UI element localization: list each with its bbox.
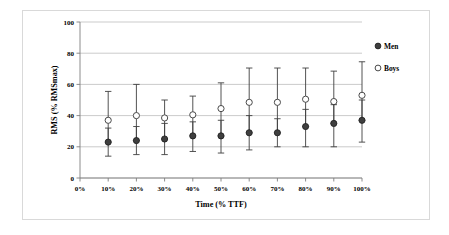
y-tick-label-20: 20 (67, 143, 75, 151)
x-tick-label-20: 20% (129, 185, 143, 193)
legend-label-boys: Boys (384, 64, 399, 73)
data-point-boys (105, 117, 111, 123)
x-tick-label-80: 80% (299, 185, 313, 193)
series-boys (105, 62, 365, 142)
y-axis-title: RMS (% RMSmax) (50, 65, 59, 134)
y-tick-label-80: 80 (67, 50, 75, 58)
data-point-boys (303, 96, 309, 102)
y-tick-label-0: 0 (71, 175, 75, 183)
x-tick-label-10: 10% (101, 185, 115, 193)
x-tick-label-60: 60% (242, 185, 256, 193)
data-point-boys (162, 115, 168, 121)
y-tick-label-100: 100 (64, 19, 75, 27)
data-point-boys (133, 113, 139, 119)
x-tick-label-0: 0% (75, 185, 86, 193)
data-point-boys (331, 98, 337, 104)
data-point-men (331, 120, 337, 126)
data-point-boys (190, 112, 196, 118)
y-tick-label-60: 60 (67, 81, 75, 89)
data-point-men (162, 136, 168, 142)
x-tick-label-90: 90% (327, 185, 341, 193)
x-tick-label-30: 30% (158, 185, 172, 193)
data-point-men (359, 117, 365, 123)
x-tick-label-40: 40% (186, 185, 200, 193)
rms-vs-time-scatter-chart: 020406080100 0%10%20%30%40%50%60%70%80%9… (0, 0, 449, 235)
data-point-boys (274, 99, 280, 105)
chart-container: 020406080100 0%10%20%30%40%50%60%70%80%9… (0, 0, 449, 235)
legend-label-men: Men (384, 42, 398, 51)
y-tick-label-40: 40 (67, 112, 75, 120)
y-axis-ticks: 020406080100 (64, 19, 81, 183)
data-point-boys (246, 99, 252, 105)
legend-marker-filled-circle (375, 43, 381, 49)
x-axis-ticks: 0%10%20%30%40%50%60%70%80%90%100% (75, 178, 371, 193)
x-axis-title: Time (% TTF) (195, 200, 247, 209)
data-point-boys (359, 92, 365, 98)
x-tick-label-70: 70% (270, 185, 284, 193)
data-point-men (190, 133, 196, 139)
legend-marker-open-circle (375, 65, 381, 71)
x-tick-label-100: 100% (353, 185, 371, 193)
data-point-men (218, 133, 224, 139)
data-point-men (105, 139, 111, 145)
data-point-men (274, 130, 280, 136)
data-point-men (303, 123, 309, 129)
chart-legend: MenBoys (375, 42, 399, 73)
data-point-men (133, 137, 139, 143)
data-point-boys (218, 105, 224, 111)
x-tick-label-50: 50% (214, 185, 228, 193)
series-men (105, 100, 365, 156)
data-point-men (246, 130, 252, 136)
